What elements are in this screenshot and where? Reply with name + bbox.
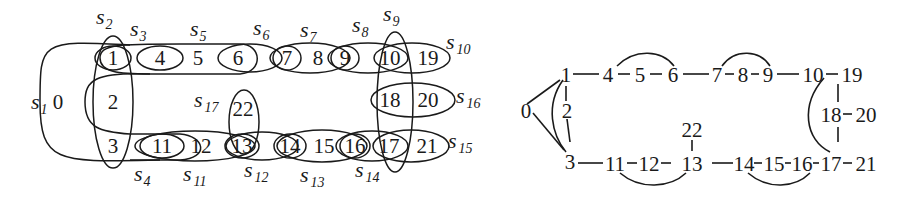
vertex-13: 13	[232, 134, 253, 158]
graph-vertex-17: 17	[821, 152, 842, 176]
label-s4: s4	[134, 161, 151, 189]
graph-vertex-12: 12	[639, 152, 660, 176]
vertex-21: 21	[417, 134, 438, 158]
label-s12: s12	[244, 157, 269, 185]
vertex-18: 18	[380, 88, 401, 112]
label-s7: s7	[300, 17, 318, 45]
graph-vertex-5: 5	[635, 63, 646, 87]
graph-vertex-18: 18	[821, 103, 842, 127]
label-s1: s1	[31, 89, 48, 117]
hypergraph-panel: 0 1 2 3 4 5 6 7 8 9 10 19 18 20 11 12 13…	[31, 1, 481, 190]
vertex-9: 9	[340, 46, 351, 70]
label-s10: s10	[446, 29, 471, 57]
graph-vertex-14: 14	[734, 152, 756, 176]
vertex-5: 5	[193, 46, 204, 70]
graph-vertex-8: 8	[738, 63, 749, 87]
graph-vertex-2: 2	[562, 99, 573, 123]
edge-curve-4-6	[617, 53, 674, 66]
vertex-6: 6	[233, 46, 244, 70]
graph-vertex-19: 19	[842, 63, 863, 87]
vertex-19: 19	[418, 46, 439, 70]
vertex-7: 7	[282, 46, 293, 70]
vertex-3: 3	[108, 134, 119, 158]
vertex-15: 15	[314, 134, 335, 158]
vertex-1: 1	[108, 46, 119, 70]
graph-vertex-10: 10	[803, 63, 824, 87]
vertex-2: 2	[108, 90, 119, 114]
vertex-4: 4	[155, 46, 166, 70]
graph-vertex-7: 7	[712, 63, 723, 87]
vertex-10: 10	[380, 46, 401, 70]
graph-panel: 0 1 2 3 4 5 6 7 8 9 10 19 18 20 22 11 12…	[521, 53, 877, 185]
label-s17: s17	[194, 87, 220, 115]
label-s6: s6	[253, 15, 270, 43]
label-s2: s2	[96, 4, 113, 32]
edge-0-3	[533, 113, 564, 150]
graph-vertex-4: 4	[603, 63, 614, 87]
label-s8: s8	[352, 12, 369, 40]
vertex-11: 11	[152, 134, 172, 158]
graph-vertex-22: 22	[682, 118, 703, 142]
graph-vertex-13: 13	[682, 152, 703, 176]
label-s16: s16	[456, 83, 481, 111]
label-s3: s3	[130, 16, 147, 44]
graph-vertex-20: 20	[856, 103, 877, 127]
vertex-22: 22	[233, 97, 254, 121]
graph-vertices: 0 1 2 3 4 5 6 7 8 9 10 19 18 20 22 11 12…	[521, 63, 877, 176]
edge-0-1	[527, 80, 560, 104]
label-s11: s11	[183, 161, 207, 189]
graph-vertex-9: 9	[763, 63, 774, 87]
label-s15: s15	[448, 128, 473, 156]
graph-vertex-6: 6	[668, 63, 679, 87]
graph-vertex-11: 11	[605, 152, 625, 176]
vertex-20: 20	[418, 88, 439, 112]
label-s5: s5	[190, 16, 207, 44]
vertex-0: 0	[53, 90, 64, 114]
vertex-14: 14	[280, 134, 302, 158]
graph-vertex-21: 21	[856, 152, 877, 176]
vertex-8: 8	[313, 46, 324, 70]
label-s13: s13	[300, 162, 325, 190]
graph-vertex-3: 3	[565, 150, 576, 174]
graph-vertex-16: 16	[792, 152, 813, 176]
vertex-16: 16	[345, 134, 366, 158]
hypergraph-vertices: 0 1 2 3 4 5 6 7 8 9 10 19 18 20 11 12 13…	[53, 46, 439, 158]
graph-vertex-15: 15	[764, 152, 785, 176]
graph-vertex-1: 1	[561, 63, 572, 87]
vertex-17: 17	[379, 134, 400, 158]
graph-vertex-0: 0	[521, 99, 532, 123]
figure-canvas: 0 1 2 3 4 5 6 7 8 9 10 19 18 20 11 12 13…	[0, 0, 916, 203]
label-s9: s9	[383, 1, 400, 29]
vertex-12: 12	[191, 134, 212, 158]
